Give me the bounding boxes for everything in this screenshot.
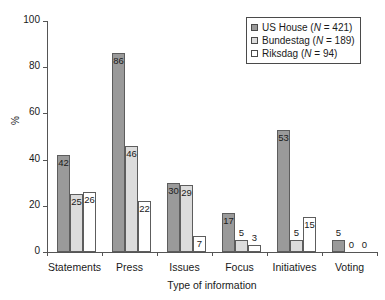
legend-label: US House (N = 421) <box>262 22 352 33</box>
x-tick-label-issues: Issues <box>157 261 212 274</box>
bar-value-label: 22 <box>135 203 154 214</box>
bar-value-label: 3 <box>245 232 264 243</box>
bar-value-label: 5 <box>329 227 348 238</box>
x-tick-mark <box>377 252 378 256</box>
legend: US House (N = 421)Bundestag (N = 189)Rik… <box>246 17 361 64</box>
bar-value-label: 17 <box>219 215 238 226</box>
x-tick-mark <box>102 252 103 256</box>
x-tick-label-statements: Statements <box>47 261 102 274</box>
bar-chart: % 020406080100 StatementsPressIssuesFocu… <box>0 0 385 300</box>
y-tick-mark <box>43 67 47 68</box>
bar-press-bundestag <box>125 146 138 252</box>
y-tick-mark <box>43 206 47 207</box>
bar-value-label: 46 <box>122 148 141 159</box>
x-tick-label-initiatives: Initiatives <box>267 261 322 274</box>
y-tick-mark <box>43 113 47 114</box>
bar-value-label: 7 <box>190 238 209 249</box>
bar-value-label: 15 <box>300 219 319 230</box>
legend-label: Bundestag (N = 189) <box>262 35 355 46</box>
y-tick-label: 60 <box>29 106 40 118</box>
legend-item-riksdag[interactable]: Riksdag (N = 94) <box>251 47 355 60</box>
x-tick-mark <box>47 252 48 256</box>
y-tick-mark <box>43 160 47 161</box>
x-axis-title: Type of information <box>47 279 377 291</box>
x-tick-label-voting: Voting <box>322 261 377 274</box>
bar-value-label: 86 <box>109 55 128 66</box>
bar-focus-riksdag <box>248 245 261 252</box>
bar-value-label: 53 <box>274 132 293 143</box>
y-axis-line <box>47 21 48 252</box>
legend-label: Riksdag (N = 94) <box>262 48 337 59</box>
y-tick-label: 100 <box>23 14 40 26</box>
legend-item-bundestag[interactable]: Bundestag (N = 189) <box>251 34 355 47</box>
bar-value-label: 0 <box>355 239 374 250</box>
bar-value-label: 29 <box>177 187 196 198</box>
legend-item-us-house[interactable]: US House (N = 421) <box>251 21 355 34</box>
bar-initiatives-bundestag <box>290 240 303 252</box>
bar-value-label: 42 <box>54 157 73 168</box>
y-tick-label: 20 <box>29 199 40 211</box>
x-tick-mark <box>267 252 268 256</box>
y-tick-label: 0 <box>34 245 40 257</box>
legend-swatch-icon <box>251 50 258 57</box>
x-tick-mark <box>157 252 158 256</box>
y-axis-title: % <box>10 116 21 125</box>
y-tick-label: 80 <box>29 60 40 72</box>
bar-value-label: 26 <box>80 194 99 205</box>
y-tick-mark <box>43 21 47 22</box>
legend-swatch-icon <box>251 37 258 44</box>
legend-swatch-icon <box>251 24 258 31</box>
x-tick-label-focus: Focus <box>212 261 267 274</box>
y-tick-label: 40 <box>29 153 40 165</box>
x-tick-label-press: Press <box>102 261 157 274</box>
x-tick-mark <box>322 252 323 256</box>
x-tick-mark <box>212 252 213 256</box>
